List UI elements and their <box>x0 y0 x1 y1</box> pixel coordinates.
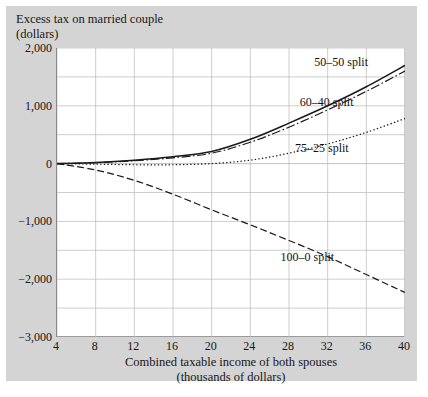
x-tick-label: 8 <box>92 339 98 354</box>
y-axis-tick-labels: 2,0001,0000−1,000−2,000−3,000 <box>0 48 52 337</box>
gridlines <box>57 48 405 337</box>
curve-100-0-split <box>57 164 405 293</box>
curve-label-100-0-split: 100–0 split <box>280 250 334 265</box>
x-tick-label: 16 <box>166 339 178 354</box>
plot-area <box>56 48 404 337</box>
x-axis-label: Combined taxable income of both spouses … <box>36 355 426 384</box>
chart-figure: Excess tax on married couple (dollars) 2… <box>0 0 428 397</box>
curve-label-60-40-split: 60–40 split <box>300 95 354 110</box>
x-tick-label: 40 <box>398 339 410 354</box>
y-tick-label: −2,000 <box>0 272 52 287</box>
x-tick-label: 20 <box>205 339 217 354</box>
chart-title: Excess tax on married couple (dollars) <box>16 12 346 41</box>
x-tick-label: 24 <box>243 339 255 354</box>
curve-label-50-50-split: 50–50 split <box>314 55 368 70</box>
curve-60-40-split <box>57 71 405 163</box>
y-tick-label: −1,000 <box>0 214 52 229</box>
x-tick-label: 32 <box>321 339 333 354</box>
plot-svg <box>57 48 405 337</box>
x-tick-label: 28 <box>282 339 294 354</box>
y-tick-label: 1,000 <box>0 98 52 113</box>
curve-label-75-25-split: 75–25 split <box>295 141 349 156</box>
curve-75-25-split <box>57 119 405 165</box>
y-tick-label: −3,000 <box>0 330 52 345</box>
x-tick-label: 4 <box>53 339 59 354</box>
x-tick-label: 12 <box>127 339 139 354</box>
y-tick-label: 0 <box>0 156 52 171</box>
x-tick-label: 36 <box>359 339 371 354</box>
y-tick-label: 2,000 <box>0 41 52 56</box>
